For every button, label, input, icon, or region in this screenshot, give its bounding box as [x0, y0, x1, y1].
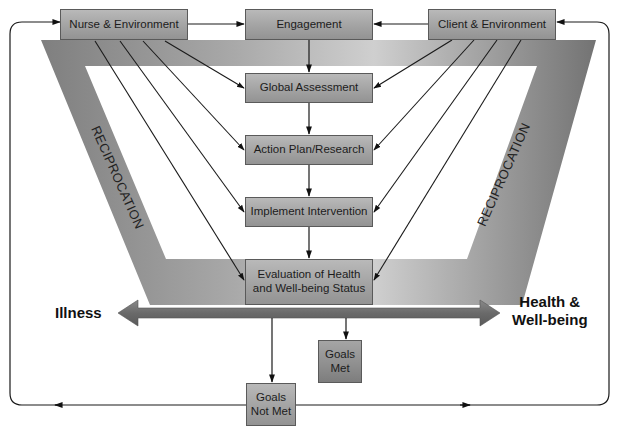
implement-intervention-label: Implement Intervention — [251, 205, 368, 219]
health-wellbeing-label: Health & Well-being — [512, 293, 588, 329]
implement-intervention-box: Implement Intervention — [245, 197, 373, 227]
action-plan-box: Action Plan/Research — [245, 135, 373, 165]
global-assessment-label: Global Assessment — [260, 81, 358, 95]
evaluation-box: Evaluation of Health and Well-being Stat… — [245, 259, 373, 305]
goals-not-met-label: Goals Not Met — [251, 391, 291, 419]
nurse-environment-label: Nurse & Environment — [69, 18, 178, 32]
client-environment-box: Client & Environment — [428, 9, 556, 40]
goals-met-box: Goals Met — [318, 340, 362, 383]
diagram-canvas: RECIPROCATION RECIPROCATION Nurse & Envi… — [0, 0, 621, 435]
evaluation-label: Evaluation of Health and Well-being Stat… — [253, 268, 365, 296]
client-environment-label: Client & Environment — [438, 18, 546, 32]
action-plan-label: Action Plan/Research — [254, 143, 365, 157]
nurse-environment-box: Nurse & Environment — [60, 9, 188, 40]
engagement-box: Engagement — [245, 9, 373, 40]
global-assessment-box: Global Assessment — [245, 73, 373, 103]
goals-not-met-box: Goals Not Met — [246, 383, 296, 426]
illness-label: Illness — [55, 304, 102, 322]
goals-met-label: Goals Met — [325, 348, 355, 376]
engagement-label: Engagement — [276, 18, 341, 32]
